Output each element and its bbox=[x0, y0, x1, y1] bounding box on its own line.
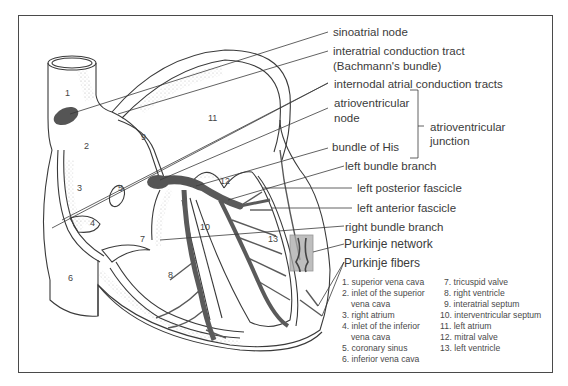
number-9: 9 bbox=[141, 132, 146, 142]
legend-item: 6. inferior vena cava bbox=[342, 354, 425, 365]
label-left-anterior-fascicle: left anterior fascicle bbox=[357, 201, 456, 215]
purkinje-network-box bbox=[290, 235, 313, 271]
legend-item-continuation: vena cava bbox=[342, 332, 425, 343]
legend-item: 7. tricuspid valve bbox=[440, 277, 541, 288]
label-sinoatrial-node: sinoatrial node bbox=[333, 25, 408, 39]
label-internodal-tracts: internodal atrial conduction tracts bbox=[334, 77, 503, 91]
number-8: 8 bbox=[168, 270, 173, 280]
label-av-junction-line2: junction bbox=[430, 134, 470, 148]
label-interatrial-tract: interatrial conduction tract bbox=[333, 44, 465, 58]
tricuspid-valve bbox=[102, 245, 150, 262]
legend-item: 4. inlet of the inferior bbox=[342, 321, 425, 332]
number-4: 4 bbox=[90, 218, 95, 228]
number-2: 2 bbox=[84, 141, 89, 151]
label-bachmanns-bundle: (Bachmann's bundle) bbox=[333, 59, 441, 73]
interatrial-septum bbox=[112, 112, 160, 180]
legend-item: 13. left ventricle bbox=[440, 343, 541, 354]
left-posterior-fascicle bbox=[220, 200, 288, 326]
label-bundle-of-his: bundle of His bbox=[332, 140, 399, 154]
coronary-sinus bbox=[107, 183, 128, 208]
leader-lines bbox=[52, 32, 424, 316]
number-11: 11 bbox=[208, 113, 217, 123]
legend-item: 12. mitral valve bbox=[440, 332, 541, 343]
legend-item: 5. coronary sinus bbox=[342, 343, 425, 354]
legend-item-continuation: vena cava bbox=[342, 299, 425, 310]
legend-item: 10. interventricular septum bbox=[440, 310, 541, 321]
label-right-bundle-branch: right bundle branch bbox=[345, 220, 443, 234]
legend-item: 11. left atrium bbox=[440, 321, 541, 332]
number-1: 1 bbox=[65, 88, 70, 98]
label-purkinje-fibers: Purkinje fibers bbox=[344, 256, 420, 270]
label-av-node-line2: node bbox=[334, 111, 360, 125]
number-3: 3 bbox=[77, 183, 82, 193]
number-12: 12 bbox=[220, 176, 230, 186]
number-10: 10 bbox=[200, 222, 210, 232]
number-5: 5 bbox=[118, 183, 123, 193]
label-left-bundle-branch: left bundle branch bbox=[345, 159, 436, 173]
label-left-posterior-fascicle: left posterior fascicle bbox=[357, 181, 462, 195]
legend-left: 1. superior vena cava 2. inlet of the su… bbox=[342, 277, 425, 365]
legend-item: 1. superior vena cava bbox=[342, 277, 425, 288]
label-purkinje-network: Purkinje network bbox=[344, 237, 433, 251]
legend-item: 9. interatrial septum bbox=[440, 299, 541, 310]
number-7: 7 bbox=[140, 234, 145, 244]
superior-vena-cava bbox=[48, 56, 112, 150]
label-av-node-line1: atrioventricular bbox=[334, 96, 409, 110]
number-13: 13 bbox=[268, 234, 278, 244]
legend-item: 3. right atrium bbox=[342, 310, 425, 321]
number-6: 6 bbox=[68, 273, 73, 283]
legend-right: 7. tricuspid valve 8. right ventricle 9.… bbox=[440, 277, 541, 354]
legend-item: 8. right ventricle bbox=[440, 288, 541, 299]
legend-item: 2. inlet of the superior bbox=[342, 288, 425, 299]
label-av-junction-line1: atrioventricular bbox=[430, 120, 505, 134]
bundle-of-his bbox=[158, 180, 200, 186]
sinoatrial-node bbox=[51, 103, 81, 128]
